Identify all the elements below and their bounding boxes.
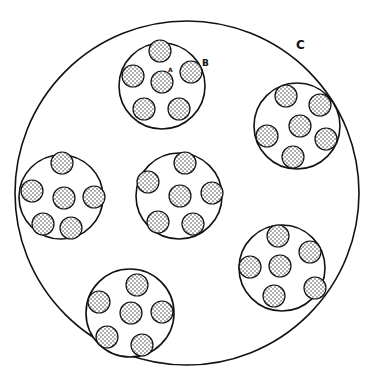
small-stippled-circle <box>151 301 173 323</box>
diagram-canvas: A B C <box>0 0 367 382</box>
small-stippled-circle <box>180 61 202 83</box>
small-stippled-circle <box>201 182 223 204</box>
small-stippled-circle <box>32 213 54 235</box>
small-stippled-circle <box>51 152 73 174</box>
small-stippled-circle <box>269 255 291 277</box>
small-stippled-circle <box>120 302 142 324</box>
nested-circles-diagram <box>0 0 367 382</box>
small-stippled-circle <box>21 180 43 202</box>
small-stippled-circle <box>267 225 289 247</box>
small-stippled-circle <box>147 211 169 233</box>
small-stippled-circle <box>83 186 105 208</box>
small-stippled-circle <box>174 152 196 174</box>
small-stippled-circle <box>169 185 191 207</box>
small-stippled-circle <box>299 241 321 263</box>
small-stippled-circle <box>149 40 171 62</box>
label-c: C <box>296 38 305 52</box>
small-stippled-circle <box>53 187 75 209</box>
small-stippled-circle <box>131 334 153 356</box>
small-stippled-circle <box>133 98 155 120</box>
label-b: B <box>202 58 209 68</box>
small-stippled-circle <box>182 213 204 235</box>
small-stippled-circle <box>88 291 110 313</box>
small-stippled-circle <box>137 171 159 193</box>
small-stippled-circle <box>168 98 190 120</box>
small-stippled-circle <box>122 65 144 87</box>
small-stippled-circle <box>60 217 82 239</box>
small-stippled-circle <box>282 146 304 168</box>
small-stippled-circle <box>239 256 261 278</box>
circles-layer <box>15 21 359 365</box>
small-stippled-circle <box>126 274 148 296</box>
small-stippled-circle <box>309 94 331 116</box>
small-stippled-circle <box>151 71 173 93</box>
small-stippled-circle <box>304 277 326 299</box>
small-stippled-circle <box>289 115 311 137</box>
small-stippled-circle <box>256 125 278 147</box>
small-stippled-circle <box>315 128 337 150</box>
small-stippled-circle <box>263 285 285 307</box>
small-stippled-circle <box>275 85 297 107</box>
small-stippled-circle <box>96 326 118 348</box>
label-a: A <box>168 66 173 73</box>
